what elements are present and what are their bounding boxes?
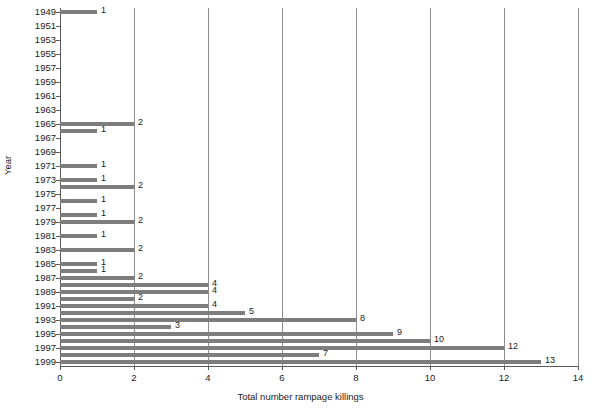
bar-value-label-1974: 2 (138, 181, 143, 190)
bar-1976 (60, 199, 97, 203)
bar-value-label-1996: 10 (434, 335, 444, 344)
y-tick-label-1951: 1951 (35, 21, 56, 31)
bar-value-label-1989: 4 (212, 286, 217, 295)
bar-value-label-1987: 2 (138, 272, 143, 281)
bar-value-label-1983: 2 (138, 244, 143, 253)
bar-value-label-1992: 5 (249, 307, 254, 316)
bar-value-label-1976: 1 (101, 195, 106, 204)
gridline-x-8 (356, 8, 357, 366)
bar-1974 (60, 185, 134, 189)
bar-value-label-1991: 4 (212, 300, 217, 309)
y-tick-label-1961: 1961 (35, 91, 56, 101)
y-tick-1963 (56, 110, 60, 111)
y-tick-label-1957: 1957 (35, 63, 56, 73)
bar-1987 (60, 276, 134, 280)
x-tick-label-6: 6 (279, 373, 284, 383)
bar-1985 (60, 262, 97, 266)
y-tick-1959 (56, 82, 60, 83)
bar-1981 (60, 234, 97, 238)
gridline-x-14 (578, 8, 579, 366)
bar-value-label-1965: 2 (138, 118, 143, 127)
y-tick-1951 (56, 26, 60, 27)
y-tick-label-1971: 1971 (35, 161, 56, 171)
y-tick-label-1987: 1987 (35, 273, 56, 283)
x-tick-6 (282, 366, 283, 370)
bar-1999 (60, 360, 541, 364)
bar-1971 (60, 164, 97, 168)
y-tick-label-1963: 1963 (35, 105, 56, 115)
bar-1995 (60, 332, 393, 336)
x-tick-label-14: 14 (573, 373, 584, 383)
y-tick-label-1949: 1949 (35, 7, 56, 17)
bar-1993 (60, 318, 356, 322)
bar-1989 (60, 290, 208, 294)
y-tick-1969 (56, 152, 60, 153)
y-tick-1975 (56, 194, 60, 195)
bar-value-label-1990: 2 (138, 293, 143, 302)
y-tick-label-1991: 1991 (35, 301, 56, 311)
bar-value-label-1979: 2 (138, 216, 143, 225)
gridline-x-10 (430, 8, 431, 366)
x-tick-12 (504, 366, 505, 370)
bar-1966 (60, 129, 97, 133)
bar-1949 (60, 10, 97, 14)
y-tick-label-1983: 1983 (35, 245, 56, 255)
bar-value-label-1973: 1 (101, 174, 106, 183)
bar-1988 (60, 283, 208, 287)
bar-1998 (60, 353, 319, 357)
y-tick-label-1977: 1977 (35, 203, 56, 213)
y-tick-label-1973: 1973 (35, 175, 56, 185)
bar-1978 (60, 213, 97, 217)
bar-1965 (60, 122, 134, 126)
rampage-killings-bar-chart: 1949195119531955195719591961196319651967… (0, 0, 601, 416)
y-tick-label-1965: 1965 (35, 119, 56, 129)
y-tick-label-1953: 1953 (35, 35, 56, 45)
bar-1983 (60, 248, 134, 252)
bar-value-label-1971: 1 (101, 160, 106, 169)
bar-1979 (60, 220, 134, 224)
bar-1990 (60, 297, 134, 301)
x-tick-label-2: 2 (131, 373, 136, 383)
bar-1994 (60, 325, 171, 329)
bar-value-label-1978: 1 (101, 209, 106, 218)
y-tick-1977 (56, 208, 60, 209)
x-tick-0 (60, 366, 61, 370)
y-tick-1953 (56, 40, 60, 41)
y-tick-1967 (56, 138, 60, 139)
x-tick-10 (430, 366, 431, 370)
y-tick-1957 (56, 68, 60, 69)
y-tick-label-1999: 1999 (35, 357, 56, 367)
gridline-x-6 (282, 8, 283, 366)
x-axis-line (60, 366, 578, 367)
bar-value-label-1986: 1 (101, 265, 106, 274)
bar-value-label-1949: 1 (101, 6, 106, 15)
y-tick-1961 (56, 96, 60, 97)
x-tick-14 (578, 366, 579, 370)
bar-value-label-1993: 8 (360, 314, 365, 323)
x-tick-label-4: 4 (205, 373, 210, 383)
bar-value-label-1997: 12 (508, 342, 518, 351)
y-tick-1955 (56, 54, 60, 55)
y-tick-label-1975: 1975 (35, 189, 56, 199)
x-axis-title: Total number rampage killings (0, 391, 601, 402)
x-tick-4 (208, 366, 209, 370)
y-tick-label-1955: 1955 (35, 49, 56, 59)
bar-1973 (60, 178, 97, 182)
y-tick-label-1967: 1967 (35, 133, 56, 143)
bar-value-label-1966: 1 (101, 125, 106, 134)
y-tick-label-1997: 1997 (35, 343, 56, 353)
x-tick-2 (134, 366, 135, 370)
x-tick-label-0: 0 (57, 373, 62, 383)
y-axis-title: Year (2, 156, 13, 175)
y-tick-label-1969: 1969 (35, 147, 56, 157)
bar-1991 (60, 304, 208, 308)
y-tick-label-1981: 1981 (35, 231, 56, 241)
x-tick-8 (356, 366, 357, 370)
gridline-x-12 (504, 8, 505, 366)
bar-value-label-1999: 13 (545, 356, 555, 365)
x-tick-label-10: 10 (425, 373, 436, 383)
bar-1992 (60, 311, 245, 315)
y-tick-label-1989: 1989 (35, 287, 56, 297)
y-tick-label-1993: 1993 (35, 315, 56, 325)
bar-value-label-1995: 9 (397, 328, 402, 337)
